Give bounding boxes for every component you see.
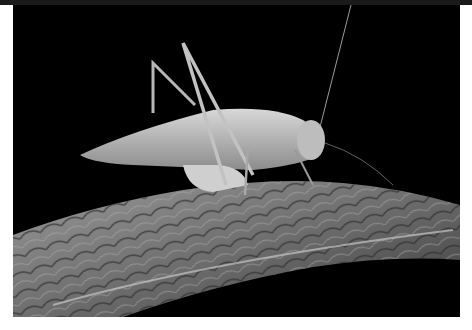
katydid-on-leaf-image (13, 5, 460, 317)
photo (13, 5, 460, 317)
